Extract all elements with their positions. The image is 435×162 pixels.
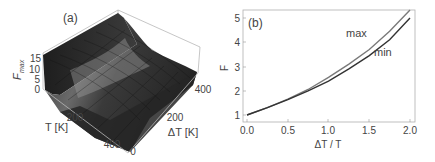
svg-text:200: 200 — [167, 112, 184, 123]
figure: (a) 15 10 5 0 F max 200 400 T [K] 0 200 … — [0, 0, 435, 162]
y-tick-labels: 1 2 3 4 5 — [234, 13, 240, 121]
svg-text:0.0: 0.0 — [240, 125, 254, 136]
series-max-line — [247, 10, 410, 115]
x-tick-marks — [247, 119, 410, 122]
svg-text:1.5: 1.5 — [362, 125, 376, 136]
annotation-min: min — [374, 46, 392, 58]
panel-a-surface-plot: (a) 15 10 5 0 F max 200 400 T [K] 0 200 … — [11, 10, 212, 157]
svg-text:0: 0 — [130, 146, 136, 157]
y-axis-label: F — [219, 65, 230, 71]
svg-text:1.0: 1.0 — [321, 125, 335, 136]
panel-b-line-chart: 1 2 3 4 5 F 0.0 0.5 1.0 1.5 2.0 ΔT / T (… — [219, 10, 417, 150]
svg-text:0: 0 — [34, 84, 40, 95]
svg-text:2: 2 — [234, 86, 240, 97]
svg-text:0.5: 0.5 — [281, 125, 295, 136]
z-axis-label: F max — [11, 59, 25, 80]
svg-text:200: 200 — [67, 112, 84, 123]
svg-text:400: 400 — [104, 139, 121, 150]
svg-text:max: max — [18, 59, 25, 73]
y-tick-marks — [243, 18, 246, 115]
panel-b-label: (b) — [248, 16, 263, 30]
svg-text:2.0: 2.0 — [403, 125, 417, 136]
annotation-max: max — [346, 27, 367, 39]
svg-text:3: 3 — [234, 62, 240, 73]
z-axis-ticks: 15 10 5 0 — [29, 53, 42, 95]
panel-a-label: (a) — [63, 11, 78, 25]
svg-text:15: 15 — [30, 53, 42, 64]
svg-text:1: 1 — [234, 110, 240, 121]
x-tick-labels: 0.0 0.5 1.0 1.5 2.0 — [240, 125, 417, 136]
x-axis-label: T [K] — [45, 121, 68, 133]
series-min-line — [247, 18, 410, 115]
x-axis-label: ΔT / T — [315, 139, 342, 150]
svg-text:5: 5 — [234, 13, 240, 24]
svg-text:4: 4 — [234, 37, 240, 48]
y-axis-label: ΔT [K] — [168, 126, 198, 138]
svg-text:400: 400 — [195, 84, 212, 95]
plot-frame — [243, 10, 415, 122]
